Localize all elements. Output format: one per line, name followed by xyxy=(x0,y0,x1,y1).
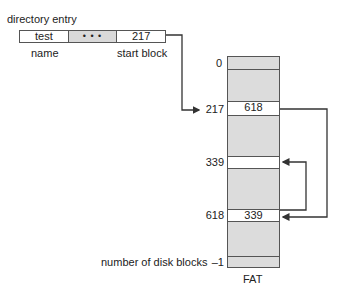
pointer-arrows xyxy=(0,0,346,303)
chain-arrow-217-618 xyxy=(280,109,327,217)
start-arrow xyxy=(166,35,199,110)
chain-arrow-618-339 xyxy=(280,162,306,210)
